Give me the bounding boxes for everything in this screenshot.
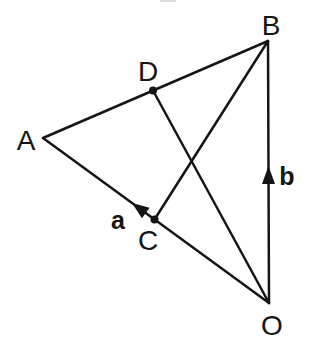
label-point-D: D bbox=[138, 56, 158, 87]
point-C-marker bbox=[151, 216, 159, 224]
vector-b-arrowhead bbox=[262, 166, 275, 184]
label-point-B: B bbox=[262, 10, 281, 41]
segment-BC bbox=[155, 41, 269, 220]
scan-artifact bbox=[160, 0, 176, 2]
label-point-O: O bbox=[261, 310, 283, 341]
label-point-C: C bbox=[138, 225, 158, 256]
label-vector-a: a bbox=[111, 206, 126, 234]
label-vector-b: b bbox=[279, 162, 294, 190]
geometry-diagram: A B C D O a b bbox=[0, 0, 310, 353]
vector-a-arrowhead bbox=[132, 203, 150, 218]
point-D-marker bbox=[149, 87, 157, 95]
label-point-A: A bbox=[17, 125, 36, 156]
figure-canvas: A B C D O a b bbox=[0, 0, 310, 353]
